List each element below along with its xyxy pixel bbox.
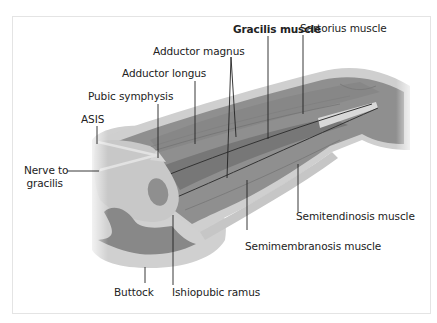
label-asis: ASIS	[81, 113, 104, 125]
label-ishiopubic-ramus: Ishiopubic ramus	[172, 286, 260, 298]
label-sartorius-muscle: Sartorius muscle	[300, 22, 387, 34]
label-semimembranosis-muscle: Semimembranosis muscle	[245, 240, 381, 252]
label-pubic-symphysis: Pubic symphysis	[88, 90, 173, 102]
label-nerve-to-gracilis-2: gracilis	[24, 177, 63, 189]
label-buttock: Buttock	[114, 286, 154, 298]
label-nerve-to-gracilis-1: Nerve to	[24, 164, 64, 176]
label-semitendinosis-muscle: Semitendinosis muscle	[296, 210, 415, 222]
label-adductor-longus: Adductor longus	[122, 67, 206, 79]
label-adductor-magnus: Adductor magnus	[153, 45, 245, 57]
